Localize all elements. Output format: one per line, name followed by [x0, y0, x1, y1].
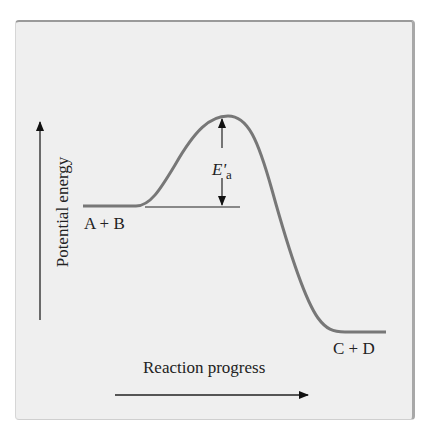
y-axis-label: Potential energy	[53, 157, 73, 268]
reactants-label: A + B	[84, 214, 125, 234]
x-axis-label: Reaction progress	[143, 358, 265, 378]
activation-energy-label: E'a	[212, 160, 232, 183]
products-label: C + D	[333, 339, 375, 359]
energy-curve	[83, 116, 386, 332]
